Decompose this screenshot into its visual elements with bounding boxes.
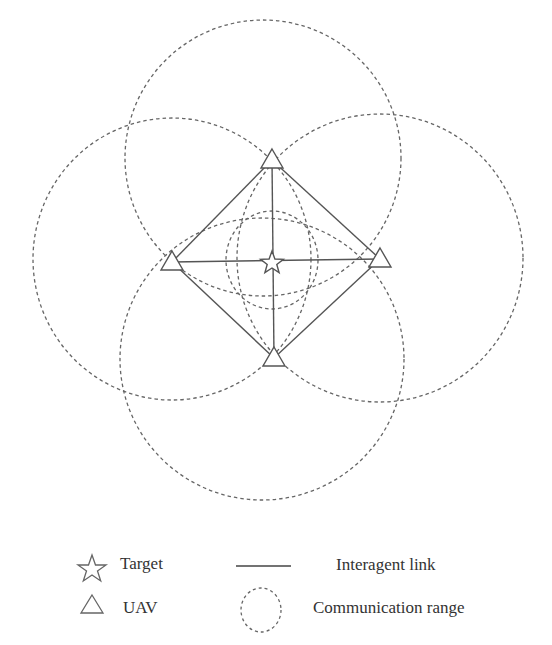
legend-range-label: Communication range: [313, 598, 465, 618]
nodes: [161, 149, 391, 366]
interagent-link-top-right: [272, 160, 380, 259]
uav-formation-diagram: [0, 0, 552, 645]
legend-target-icon: [78, 555, 106, 581]
target-star-icon: [261, 251, 284, 273]
uav-icon-right: [369, 248, 391, 267]
legend-target-label: Target: [120, 554, 163, 574]
interagent-link-top-left: [172, 160, 272, 262]
interagent-link-bottom-right: [274, 259, 380, 358]
legend-uav-label: UAV: [123, 598, 158, 618]
interagent-link-bottom-left: [172, 262, 274, 358]
legend-range-icon: [241, 588, 281, 632]
uav-icon-top: [261, 149, 283, 168]
legend-uav-icon: [81, 595, 103, 613]
legend-link-label: Interagent link: [336, 555, 436, 575]
